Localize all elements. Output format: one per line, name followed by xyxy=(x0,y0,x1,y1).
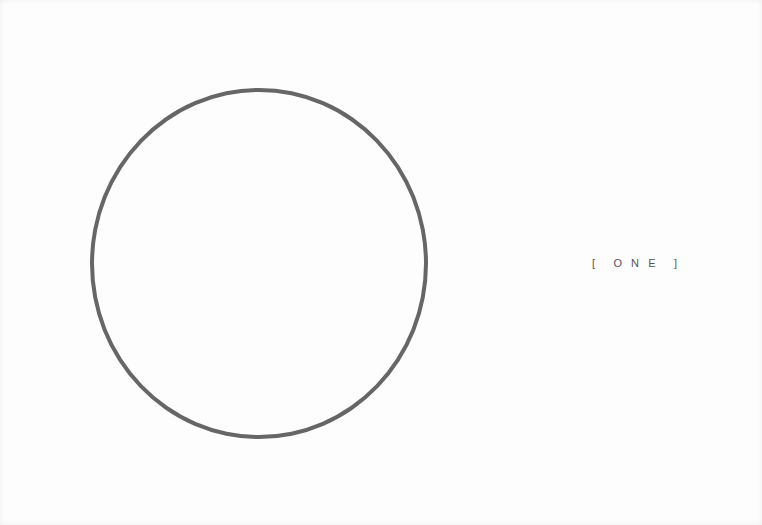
circle-outline xyxy=(90,88,428,439)
bracketed-label: [ O N E ] xyxy=(592,257,677,269)
